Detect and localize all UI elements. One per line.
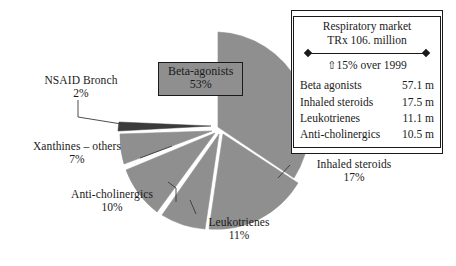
slice-label-percent: 11% (183, 229, 295, 242)
info-row: Inhaled steroids 17.5 m (300, 94, 434, 110)
info-row-value: 57.1 m (396, 77, 434, 93)
market-info-box: Respiratory market TRx 106. million ⇧15%… (291, 10, 443, 154)
pie-slice-nsaid-bronch[interactable] (118, 122, 211, 131)
slice-label-anti-cholinergics: Anti-cholinergics 10% (46, 188, 178, 214)
info-row-value: 11.1 m (396, 110, 434, 126)
info-row-label: Anti-cholinergics (300, 126, 380, 142)
slice-label-name: Leukotrienes (183, 216, 295, 229)
info-row-label: Inhaled steroids (300, 94, 373, 110)
info-row: Leukotrienes 11.1 m (300, 110, 434, 126)
diamond-marker-right (422, 48, 430, 56)
chart-canvas: Beta-agonists 53% NSAID Bronch 2% Xanthi… (0, 0, 456, 266)
info-row-value: 10.5 m (396, 126, 434, 142)
slice-label-inhaled-steroids: Inhaled steroids 17% (292, 158, 416, 184)
info-row-label: Beta agonists (300, 77, 362, 93)
center-slice-label: Beta-agonists 53% (158, 62, 243, 96)
info-row: Beta agonists 57.1 m (300, 77, 434, 93)
info-row-value: 17.5 m (396, 94, 434, 110)
info-divider-rule (304, 49, 430, 58)
info-title-line-2: TRx 106. million (300, 34, 434, 48)
info-title-line-1: Respiratory market (300, 20, 434, 34)
center-slice-name: Beta-agonists (168, 65, 233, 78)
slice-label-name: Anti-cholinergics (46, 188, 178, 201)
slice-label-percent: 2% (22, 87, 140, 100)
slice-label-name: NSAID Bronch (22, 74, 140, 87)
slice-label-leukotrienes: Leukotrienes 11% (183, 216, 295, 242)
slice-label-name: Xanthines – others (4, 140, 150, 153)
info-growth-text: 15% over 1999 (336, 59, 406, 71)
slice-label-percent: 10% (46, 201, 178, 214)
info-growth-line: ⇧15% over 1999 (300, 58, 434, 73)
market-info-box-inner: Respiratory market TRx 106. million ⇧15%… (293, 16, 441, 148)
center-slice-percent: 53% (168, 78, 233, 91)
slice-label-name: Inhaled steroids (292, 158, 416, 171)
divider-bar (308, 53, 426, 54)
info-row: Anti-cholinergics 10.5 m (300, 126, 434, 142)
slice-label-percent: 7% (4, 153, 150, 166)
info-row-label: Leukotrienes (300, 110, 360, 126)
info-value-rows: Beta agonists 57.1 m Inhaled steroids 17… (300, 77, 434, 142)
slice-label-nsaid-bronch: NSAID Bronch 2% (22, 74, 140, 100)
slice-label-xanthines-others: Xanthines – others 7% (4, 140, 150, 166)
slice-label-percent: 17% (292, 171, 416, 184)
